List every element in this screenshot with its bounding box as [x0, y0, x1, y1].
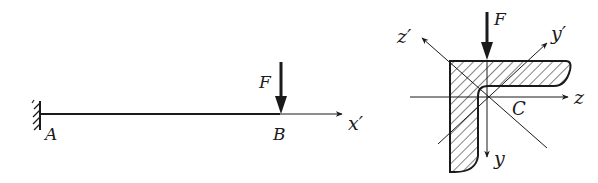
- figure-canvas: F A B x′ F z′: [0, 0, 598, 183]
- angle-section-shape: [440, 55, 580, 180]
- y-prime-axis-label: y′: [550, 22, 567, 44]
- y-axis-label: y: [493, 147, 505, 169]
- centroid-label-c: C: [512, 98, 526, 119]
- angle-section-diagram: F z′ y′ z y C: [396, 9, 585, 180]
- cantilever-beam-diagram: F A B x′: [32, 62, 364, 144]
- z-prime-axis-arrow: [422, 38, 547, 148]
- z-axis-label: z: [573, 86, 585, 108]
- point-label-b: B: [272, 124, 286, 144]
- support-label-a: A: [43, 124, 57, 144]
- force-label-right: F: [493, 9, 507, 29]
- figure-svg: F A B x′ F z′: [0, 0, 598, 183]
- x-prime-axis-label: x′: [348, 112, 364, 134]
- force-label-left: F: [258, 72, 272, 92]
- force-arrow-icon: [275, 62, 287, 114]
- z-prime-axis-label: z′: [396, 25, 412, 47]
- force-arrow-icon-section: [481, 12, 493, 60]
- fixed-support-icon: [32, 100, 40, 130]
